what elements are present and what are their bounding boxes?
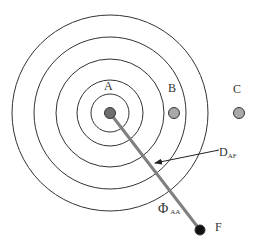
node-label-f: F <box>215 221 222 233</box>
node-c <box>234 108 245 119</box>
node-b <box>169 108 180 119</box>
diagram-canvas: A B C F DAF ΦAA <box>0 0 255 244</box>
diagram-svg <box>0 0 255 244</box>
node-label-b: B <box>168 82 176 94</box>
phi-symbol: Φ <box>158 201 168 216</box>
distance-label: DAF <box>219 146 237 158</box>
node-a <box>105 108 116 119</box>
distance-arrow <box>155 150 219 163</box>
node-f <box>195 225 205 235</box>
edge-label-phi: ΦAA <box>158 202 180 216</box>
node-label-c: C <box>233 83 241 95</box>
phi-subscript: AA <box>170 208 180 216</box>
edge-a-to-f <box>110 113 200 230</box>
node-label-a: A <box>104 80 113 92</box>
distance-symbol: D <box>219 145 228 159</box>
distance-subscript: AF <box>228 152 237 160</box>
